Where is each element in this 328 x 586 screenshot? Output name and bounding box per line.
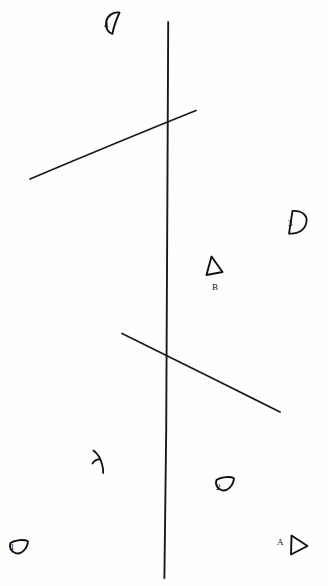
label-d1: 1 xyxy=(8,532,13,548)
label-d3: 3 xyxy=(286,208,291,224)
label-d1-subscript: 1 xyxy=(10,542,15,552)
label-point-b: B xyxy=(212,283,218,292)
label-d4: 4 xyxy=(102,10,107,26)
label-d2: 2 xyxy=(214,472,219,488)
label-d4-subscript: 4 xyxy=(104,20,109,30)
label-d3-subscript: 3 xyxy=(288,218,293,228)
triangle-right-glyph-a xyxy=(291,536,308,555)
label-point-a: A xyxy=(277,538,284,547)
vertical-line xyxy=(164,22,168,578)
lower-diagonal-line xyxy=(122,334,280,413)
upper-diagonal-line xyxy=(30,111,196,180)
label-d2-subscript: 2 xyxy=(216,482,221,492)
lambda-stroke-glyph xyxy=(93,451,104,474)
sketch-drawing xyxy=(0,0,328,586)
sketch-canvas: 4 3 2 1 B A xyxy=(0,0,328,586)
triangle-up-glyph-b xyxy=(207,257,223,276)
